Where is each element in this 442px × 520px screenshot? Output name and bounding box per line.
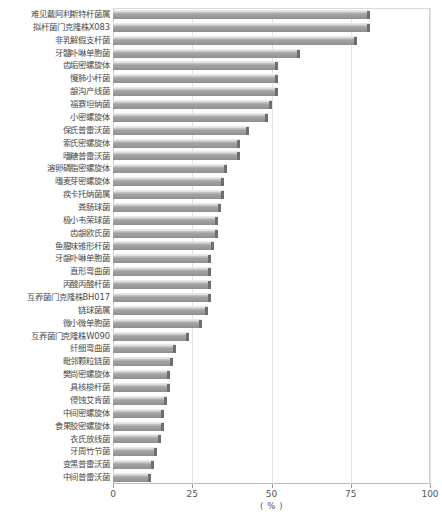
category-label: 嗜麦芽密螺旋体 [2,175,110,188]
bar-row: 粪肠球菌 [0,201,442,214]
bar [113,473,151,482]
bar-row: 微小微单胞菌 [0,317,442,330]
x-tick-mark [192,484,193,488]
bar-row: 拟杆菌门克隆株X083 [0,21,442,34]
category-label: 小密螺旋体 [2,111,110,124]
bar [113,280,211,289]
category-label: 保氏普雷沃菌 [2,124,110,137]
bar [113,113,268,122]
bar-fill [113,293,211,302]
bar-row: 极小韦荣球菌 [0,214,442,227]
bar-row: 樊尚密螺旋体 [0,368,442,381]
category-label: 纤细弯曲菌 [2,342,110,355]
bar [113,254,211,263]
bar [113,460,154,469]
bar-fill [113,164,227,173]
category-label: 疾卡托纳菌属 [2,188,110,201]
category-label: 具核梭杆菌 [2,381,110,394]
x-tick-label: 50 [252,489,292,499]
bar-fill [113,306,208,315]
bar-fill [113,396,167,405]
bar-fill [113,113,268,122]
category-label: 溶卵磷脂密螺旋体 [2,162,110,175]
bar-fill [113,332,189,341]
bar-fill [113,190,224,199]
bar-row: 牙龈卟啉单胞菌 [0,252,442,265]
bar [113,434,161,443]
bar-row: 疾卡托纳菌属 [0,188,442,201]
bar-row: 互养菌门克隆株BH017 [0,291,442,304]
category-label: 难见戴阿利斯特杆菌属 [2,8,110,21]
x-tick-mark [351,484,352,488]
bar [113,241,214,250]
category-label: 极小韦荣球菌 [2,214,110,227]
category-label: 丙酸丙酸杆菌 [2,278,110,291]
bar [113,319,202,328]
category-label: 牙髓卟啉单胞菌 [2,47,110,60]
bar [113,306,208,315]
category-label: 樊尚密螺旋体 [2,368,110,381]
bar [113,447,157,456]
bar [113,61,278,70]
category-label: 直形弯曲菌 [2,265,110,278]
bar [113,293,211,302]
category-label: 非乳解假支杆菌 [2,34,110,47]
bar [113,203,221,212]
bar [113,126,249,135]
bar-fill [113,422,164,431]
bar-row: 互养菌门克隆株W090 [0,330,442,343]
bar-fill [113,383,170,392]
bar [113,409,164,418]
x-tick-label: 100 [410,489,442,499]
bar-row: 嗜麦芽密螺旋体 [0,175,442,188]
bar-fill [113,473,151,482]
category-label: 牙龈卟啉单胞菌 [2,252,110,265]
bar-row: 齿龈欧氏菌 [0,227,442,240]
bar-fill [113,229,218,238]
bar-row: 侵蚀艾肯菌 [0,394,442,407]
bar-row: 直形弯曲菌 [0,265,442,278]
bar [113,23,370,32]
bar [113,332,189,341]
bar-row: 丙酸丙酸杆菌 [0,278,442,291]
bar-row: 嗜糖普雷沃菌 [0,150,442,163]
bar-fill [113,151,240,160]
x-tick-mark [430,484,431,488]
bar-row: 中间普雷沃菌 [0,471,442,484]
bar-fill [113,267,211,276]
bar-row: 索氏密螺旋体 [0,137,442,150]
bar-row: 纤细弯曲菌 [0,342,442,355]
bar-rows: 难见戴阿利斯特杆菌属拟杆菌门克隆株X083非乳解假支杆菌牙髓卟啉单胞菌齿垢密螺旋… [0,8,442,484]
bar-fill [113,126,249,135]
bar-row: 牙髓卟啉单胞菌 [0,47,442,60]
x-tick-label: 0 [93,489,133,499]
category-label: 慢肺小杆菌 [2,72,110,85]
bar-row: 鱼腥味锥形杆菌 [0,240,442,253]
bar [113,87,278,96]
bar-fill [113,254,211,263]
bar-fill [113,100,272,109]
bar-row: 中间密螺旋体 [0,407,442,420]
bar-fill [113,370,170,379]
bar [113,151,240,160]
bar [113,74,278,83]
bar-fill [113,409,164,418]
bar-row: 非乳解假支杆菌 [0,34,442,47]
category-label: 链球菌属 [2,304,110,317]
bar [113,357,173,366]
category-label: 侵蚀艾肯菌 [2,394,110,407]
category-label: 互养菌门克隆株W090 [2,330,110,343]
category-label: 中间密螺旋体 [2,407,110,420]
bar [113,216,218,225]
bar-fill [113,177,224,186]
bar-row: 龈沟产线菌 [0,85,442,98]
bar-fill [113,139,240,148]
category-label: 毗邻颗粒链菌 [2,355,110,368]
category-label: 牙周竹节菌 [2,445,110,458]
bar-fill [113,49,300,58]
bar [113,177,224,186]
bar [113,383,170,392]
bar [113,422,164,431]
horizontal-bar-chart: 难见戴阿利斯特杆菌属拟杆菌门克隆株X083非乳解假支杆菌牙髓卟啉单胞菌齿垢密螺旋… [0,0,442,520]
category-label: 嗜糖普雷沃菌 [2,150,110,163]
